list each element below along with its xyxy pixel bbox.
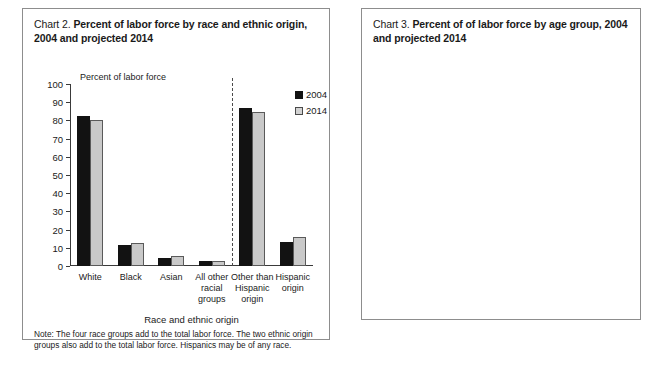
x-tick-label-line: groups <box>190 294 234 305</box>
x-tick-label-line: origin <box>230 294 274 305</box>
chart2-title-text: Percent of labor force by race and ethni… <box>34 18 307 44</box>
x-tick-label: Other thanHispanicorigin <box>230 272 274 305</box>
x-tick-label-line: Other than <box>230 272 274 283</box>
bar-group <box>239 84 265 266</box>
group-separator-line <box>232 78 233 266</box>
bar-2014 <box>90 120 103 267</box>
bar-group <box>199 84 225 266</box>
y-tick-label: 10 <box>52 242 63 253</box>
y-tick-mark <box>66 230 70 231</box>
legend-item: 2014 <box>295 104 327 117</box>
y-tick-mark <box>66 266 70 267</box>
y-tick-label: 0 <box>58 261 63 272</box>
bar-2004 <box>158 258 171 266</box>
chart2-title: Chart 2. Percent of labor force by race … <box>34 18 319 45</box>
x-tick-label-line: origin <box>271 283 315 294</box>
chart2-title-number: Chart 2. <box>34 18 71 30</box>
y-tick-label: 60 <box>52 151 63 162</box>
chart2-legend: 20042014 <box>295 88 327 120</box>
x-tick-label-line: White <box>68 272 112 283</box>
chart3-title-number: Chart 3. <box>373 18 410 30</box>
bar-2014 <box>212 261 225 266</box>
y-tick-label: 30 <box>52 206 63 217</box>
bar-2014 <box>293 237 306 266</box>
bar-2004 <box>239 108 252 266</box>
bar-group <box>118 84 144 266</box>
y-tick-mark <box>66 102 70 103</box>
chart2-x-axis-title: Race and ethnic origin <box>70 314 313 325</box>
x-tick-label-line: Hispanic <box>271 272 315 283</box>
y-tick-label: 20 <box>52 224 63 235</box>
chart2-y-axis-line <box>70 84 71 266</box>
x-tick-label: Hispanicorigin <box>271 272 315 294</box>
bar-2014 <box>252 112 265 266</box>
x-tick-label: Black <box>109 272 153 283</box>
legend-swatch <box>295 107 303 115</box>
chart2-y-axis-label: Percent of labor force <box>80 72 166 82</box>
y-tick-label: 80 <box>52 115 63 126</box>
x-tick-label: All otherracialgroups <box>190 272 234 305</box>
bar-2014 <box>171 256 184 266</box>
y-tick-mark <box>66 139 70 140</box>
chart2-plot-area: 0102030405060708090100 WhiteBlackAsianAl… <box>70 84 313 266</box>
y-tick-label: 70 <box>52 133 63 144</box>
y-tick-label: 50 <box>52 170 63 181</box>
y-tick-mark <box>66 193 70 194</box>
legend-swatch <box>295 91 303 99</box>
figure-page: Chart 2. Percent of labor force by race … <box>0 0 649 371</box>
bar-2004 <box>199 261 212 266</box>
x-tick-label-line: All other <box>190 272 234 283</box>
chart3-title-text: Percent of of labor force by age group, … <box>373 18 627 44</box>
legend-item: 2004 <box>295 88 327 101</box>
bar-group <box>77 84 103 266</box>
bar-2014 <box>131 243 144 266</box>
chart2-panel: Chart 2. Percent of labor force by race … <box>22 8 330 340</box>
bar-2004 <box>77 116 90 266</box>
x-tick-label-line: Asian <box>149 272 193 283</box>
y-tick-label: 100 <box>47 79 63 90</box>
y-tick-label: 40 <box>52 188 63 199</box>
legend-label: 2014 <box>306 105 327 116</box>
x-tick-label: White <box>68 272 112 283</box>
legend-label: 2004 <box>306 89 327 100</box>
y-tick-mark <box>66 211 70 212</box>
chart2-x-axis-line <box>70 265 313 266</box>
x-tick-label-line: Black <box>109 272 153 283</box>
bar-2004 <box>280 242 293 266</box>
x-tick-label: Asian <box>149 272 193 283</box>
bar-2004 <box>118 245 131 266</box>
chart3-panel: Chart 3. Percent of of labor force by ag… <box>361 8 641 320</box>
y-tick-mark <box>66 175 70 176</box>
chart2-note: Note: The four race groups add to the to… <box>34 329 322 350</box>
chart3-title: Chart 3. Percent of of labor force by ag… <box>373 18 635 45</box>
x-tick-label-line: racial <box>190 283 234 294</box>
y-tick-mark <box>66 157 70 158</box>
y-tick-mark <box>66 120 70 121</box>
y-tick-label: 90 <box>52 97 63 108</box>
y-tick-mark <box>66 248 70 249</box>
y-tick-mark <box>66 84 70 85</box>
bar-group <box>158 84 184 266</box>
x-tick-label-line: Hispanic <box>230 283 274 294</box>
